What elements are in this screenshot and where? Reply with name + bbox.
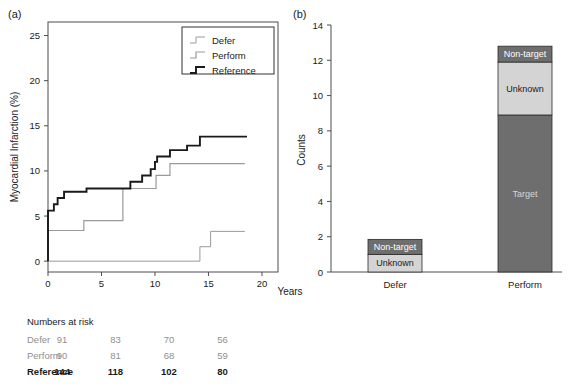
risk-row-value: 118	[108, 366, 123, 377]
panel-b: (b) 02468101214 Counts UnknownNon-target…	[293, 8, 562, 290]
risk-row-value: 102	[161, 366, 177, 377]
km-curve-defer	[48, 231, 245, 261]
panel-b-category-perform: Perform	[508, 279, 542, 290]
panel-b-y-tick-label: 2	[318, 231, 323, 242]
bar-segment-label-target: Target	[512, 189, 538, 199]
risk-row-value: 68	[164, 350, 175, 361]
numbers-at-risk-table: Numbers at risk Defer91837056Perform9081…	[27, 316, 228, 377]
panel-a-legend: DeferPerformReference	[182, 27, 274, 76]
panel-a-y-tick-label: 20	[29, 75, 40, 86]
risk-row-value: 91	[57, 334, 68, 345]
panel-a-y-tick-label: 0	[35, 256, 40, 267]
risk-row-value: 59	[217, 350, 228, 361]
km-curve-reference	[48, 137, 247, 262]
panel-a-x-tick-label: 15	[203, 278, 214, 289]
km-curve-perform	[48, 164, 245, 261]
numbers-at-risk-title: Numbers at risk	[27, 316, 94, 327]
risk-row-label: Defer	[27, 334, 50, 345]
bar-segment-label-non-target: Non-target	[504, 49, 547, 59]
panel-a-y-tick-label: 15	[29, 120, 40, 131]
panel-a-x-tick-label: 20	[257, 278, 268, 289]
panel-b-y-tick-label: 4	[318, 196, 323, 207]
panel-a-y-tick-label: 5	[35, 211, 40, 222]
legend-label-perform: Perform	[212, 50, 246, 61]
panel-b-y-tick-label: 8	[318, 125, 323, 136]
legend-label-reference: Reference	[212, 65, 256, 76]
bar-segment-label-unknown: Unknown	[376, 258, 414, 268]
panel-b-y-tick-label: 14	[312, 20, 323, 31]
risk-row-value: 90	[57, 350, 68, 361]
risk-row-value: 80	[217, 366, 228, 377]
risk-row-value: 81	[110, 350, 121, 361]
panel-b-y-tick-label: 12	[312, 55, 323, 66]
risk-row-value: 56	[217, 334, 228, 345]
panel-a-x-tick-label: 0	[45, 278, 50, 289]
panel-a-x-axis-title: Years	[277, 286, 302, 297]
panel-b-category-labels: DeferPerform	[383, 279, 542, 290]
panel-a-y-tick-label: 25	[29, 30, 40, 41]
bar-segment-label-unknown: Unknown	[506, 84, 544, 94]
risk-row-value: 144	[54, 366, 71, 377]
legend-label-defer: Defer	[212, 35, 235, 46]
panel-b-label: (b)	[293, 8, 306, 20]
panel-a-y-tick-label: 10	[29, 165, 40, 176]
panel-a-x-axis: 05101520	[45, 272, 267, 289]
risk-row-value: 70	[164, 334, 175, 345]
bar-segment-label-non-target: Non-target	[374, 242, 417, 252]
panel-b-y-tick-label: 10	[312, 90, 323, 101]
panel-b-y-axis-title: Counts	[296, 134, 307, 166]
panel-b-category-defer: Defer	[383, 279, 406, 290]
panel-a-x-tick-label: 10	[150, 278, 161, 289]
panel-a-x-tick-label: 5	[99, 278, 104, 289]
panel-a-label: (a)	[8, 8, 21, 20]
panel-a-y-axis: 0510152025	[29, 30, 48, 267]
panel-b-y-axis: 02468101214	[312, 20, 331, 278]
panel-b-bars: UnknownNon-targetTargetUnknownNon-target	[368, 46, 552, 272]
panel-a-curves	[48, 137, 247, 262]
panel-b-y-tick-label: 6	[318, 161, 323, 172]
panel-a: (a) 0510152025 05101520 Years Myocardial…	[8, 8, 303, 377]
figure-svg: (a) 0510152025 05101520 Years Myocardial…	[0, 0, 569, 389]
panel-b-y-tick-label: 0	[318, 267, 323, 278]
panel-a-y-axis-title: Myocardial Infarction (%)	[9, 92, 20, 203]
figure-container: (a) 0510152025 05101520 Years Myocardial…	[0, 0, 569, 389]
risk-row-value: 83	[110, 334, 121, 345]
